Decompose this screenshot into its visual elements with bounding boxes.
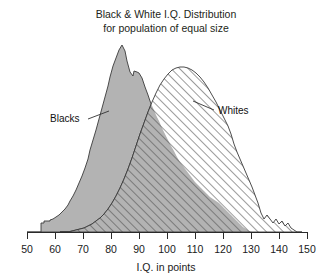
chart-canvas: Black & White I.Q. Distribution for popu… [0,0,332,278]
tick-label-80: 80 [105,243,117,255]
tick-label-110: 110 [187,243,204,255]
chart-title-line2: for population of equal size [103,22,229,34]
tick-label-100: 100 [158,243,176,255]
tick-label-150: 150 [298,243,316,255]
blacks-label: Blacks [50,113,79,124]
tick-label-120: 120 [214,243,232,255]
tick-label-130: 130 [242,243,260,255]
x-axis-title: I.Q. in points [137,261,196,273]
tick-label-50: 50 [21,243,33,255]
iq-distribution-figure: Black & White I.Q. Distribution for popu… [0,0,332,278]
tick-label-60: 60 [49,243,61,255]
tick-label-140: 140 [270,243,288,255]
chart-title-line1: Black & White I.Q. Distribution [96,8,237,20]
whites-label: Whites [218,105,249,116]
tick-label-90: 90 [133,243,145,255]
tick-label-70: 70 [77,243,89,255]
